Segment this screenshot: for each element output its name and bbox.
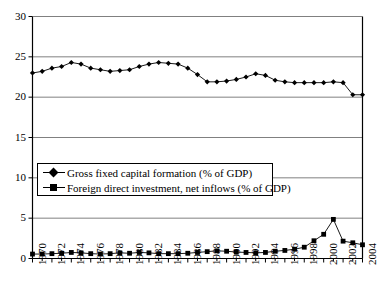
data-point-marker	[234, 77, 239, 82]
x-axis-tick-label: 1990	[231, 243, 242, 265]
data-point-marker	[302, 80, 307, 85]
data-point-marker	[127, 251, 132, 256]
data-point-marker	[282, 248, 287, 253]
data-point-marker	[282, 79, 287, 84]
data-point-marker	[69, 250, 74, 255]
data-point-marker	[273, 78, 278, 83]
x-axis-tick-label: 1992	[250, 243, 261, 265]
y-axis-tick-label: 30	[2, 11, 26, 22]
data-point-marker	[185, 66, 190, 71]
series-line	[33, 62, 363, 94]
data-point-marker	[341, 239, 346, 244]
legend-label-gfcf: Gross fixed capital formation (% of GDP)	[65, 167, 252, 179]
data-point-marker	[30, 252, 35, 257]
data-point-marker	[127, 67, 132, 72]
legend-marker-diamond-icon	[43, 167, 65, 178]
legend-item-gfcf: Gross fixed capital formation (% of GDP)	[38, 165, 272, 180]
x-axis-tick-label: 1994	[269, 243, 280, 265]
data-point-marker	[224, 78, 229, 83]
data-point-marker	[175, 61, 180, 66]
data-point-marker	[146, 61, 151, 66]
x-axis-tick-label: 2000	[328, 243, 339, 265]
data-point-marker	[292, 80, 297, 85]
data-point-marker	[244, 250, 249, 255]
data-point-marker	[78, 61, 83, 66]
data-point-marker	[156, 60, 161, 65]
data-point-marker	[214, 79, 219, 84]
chart-container: 302520151050 197019721974197619781980198…	[0, 0, 378, 303]
data-point-marker	[88, 66, 93, 71]
y-axis-tick-label: 0	[2, 253, 26, 264]
data-point-marker	[205, 249, 210, 254]
y-axis-tick-label: 25	[2, 51, 26, 62]
data-point-marker	[331, 79, 336, 84]
series-gfcf	[30, 60, 365, 97]
chart-legend: Gross fixed capital formation (% of GDP)…	[37, 163, 273, 196]
data-point-marker	[360, 92, 365, 97]
data-point-marker	[49, 66, 54, 71]
data-point-marker	[360, 242, 365, 247]
x-axis-tick-label: 1988	[211, 243, 222, 265]
gridlines	[33, 17, 363, 259]
y-axis-tick-label: 20	[2, 91, 26, 102]
data-point-marker	[302, 245, 307, 250]
x-axis-tick-label: 1974	[75, 243, 86, 265]
data-point-marker	[321, 232, 326, 237]
x-axis-tick-label: 1984	[172, 243, 183, 265]
data-point-marker	[185, 251, 190, 256]
x-axis-tick-label: 1976	[95, 243, 106, 265]
y-axis-tick-label: 10	[2, 172, 26, 183]
data-point-marker	[166, 61, 171, 66]
data-point-marker	[40, 69, 45, 74]
x-axis-tick-label: 1982	[153, 243, 164, 265]
x-axis-tick-label: 2002	[347, 243, 358, 265]
data-point-marker	[88, 251, 93, 256]
data-point-marker	[98, 67, 103, 72]
legend-label-fdi: Foreign direct investment, net inflows (…	[65, 182, 291, 194]
data-point-marker	[30, 70, 35, 75]
x-axis-tick-label: 1996	[289, 243, 300, 265]
data-point-marker	[147, 250, 152, 255]
data-point-marker	[321, 80, 326, 85]
x-axis-tick-label: 1978	[114, 243, 125, 265]
x-axis-tick-label: 2004	[367, 243, 378, 265]
legend-marker-square-icon	[43, 182, 65, 193]
x-axis-tick-label: 1972	[56, 243, 67, 265]
data-series-layer	[30, 60, 365, 257]
data-point-marker	[69, 60, 74, 65]
x-axis-tick-label: 1980	[134, 243, 145, 265]
data-point-marker	[263, 73, 268, 78]
data-point-marker	[224, 249, 229, 254]
legend-item-fdi: Foreign direct investment, net inflows (…	[38, 180, 272, 195]
y-axis-tick-label: 15	[2, 132, 26, 143]
y-axis-tick-label: 5	[2, 212, 26, 223]
data-point-marker	[243, 74, 248, 79]
data-point-marker	[108, 69, 113, 74]
data-point-marker	[311, 80, 316, 85]
data-point-marker	[137, 64, 142, 69]
data-point-marker	[331, 217, 336, 222]
data-point-marker	[253, 71, 258, 76]
x-axis-tick-label: 1970	[37, 243, 48, 265]
x-axis-tick-label: 1998	[308, 243, 319, 265]
x-axis-tick-label: 1986	[192, 243, 203, 265]
data-point-marker	[50, 251, 55, 256]
data-point-marker	[59, 64, 64, 69]
data-point-marker	[117, 68, 122, 73]
data-point-marker	[108, 251, 113, 256]
